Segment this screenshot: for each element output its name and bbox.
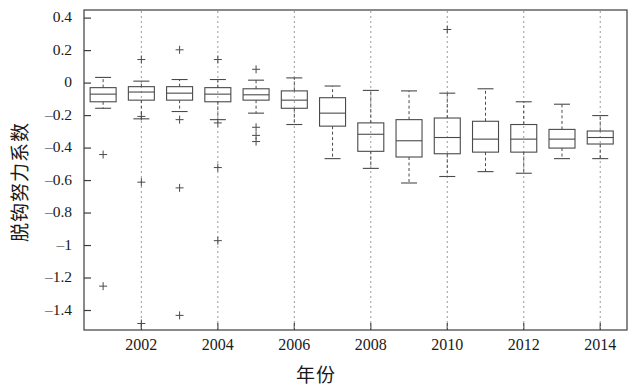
- boxplot-figure: 脱钩努力系数 年份 0.40.20–0.2–0.4–0.6–0.8–1–1.2–…: [0, 0, 631, 390]
- x-tick-label: 2004: [188, 336, 248, 354]
- y-tick-label: –0.4: [10, 138, 72, 156]
- y-tick-label: –1: [10, 236, 72, 254]
- y-tick-label: –0.6: [10, 171, 72, 189]
- box-iqr: [473, 121, 499, 152]
- x-tick-label: 2008: [341, 336, 401, 354]
- box-iqr: [434, 118, 460, 154]
- box-iqr: [396, 120, 422, 157]
- box-iqr: [205, 88, 231, 102]
- y-tick-label: 0.2: [10, 41, 72, 59]
- y-tick-label: –0.2: [10, 106, 72, 124]
- x-tick-label: 2002: [111, 336, 171, 354]
- y-tick-label: –1.4: [10, 301, 72, 319]
- y-tick-label: 0.4: [10, 8, 72, 26]
- x-tick-label: 2010: [417, 336, 477, 354]
- box-iqr: [320, 98, 346, 126]
- x-tick-label: 2014: [570, 336, 630, 354]
- x-tick-label: 2006: [264, 336, 324, 354]
- box-iqr: [128, 87, 154, 100]
- y-tick-label: –1.2: [10, 268, 72, 286]
- plot-canvas: [0, 0, 631, 390]
- x-axis-label: 年份: [0, 360, 631, 387]
- y-tick-label: 0: [10, 73, 72, 91]
- box-iqr: [90, 88, 116, 102]
- plot-frame: [84, 10, 627, 330]
- y-tick-label: –0.8: [10, 203, 72, 221]
- box-iqr: [281, 91, 307, 108]
- x-tick-label: 2012: [494, 336, 554, 354]
